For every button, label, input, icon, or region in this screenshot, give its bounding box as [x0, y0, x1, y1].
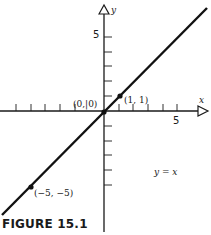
point-neg5-neg5: [28, 184, 33, 189]
point-1-1-label: (1, 1): [124, 95, 148, 105]
point-1-1: [117, 93, 122, 98]
chart-canvas: y x 5 5 (0,|0) (1, 1) (−5, −5) y = x: [0, 0, 211, 235]
point-neg5-label: (−5, −5): [34, 188, 73, 198]
point-origin: [101, 109, 106, 114]
origin-label: (0,|0): [73, 99, 97, 110]
x-axis-label: x: [199, 95, 204, 105]
y-axis-label: y: [110, 5, 117, 15]
x-axis-arrow-icon: [198, 106, 208, 116]
y-axis-arrow-icon: [99, 5, 109, 14]
y-tick-label-5: 5: [93, 29, 99, 40]
figure-caption: FIGURE 15.1: [2, 217, 88, 231]
x-tick-label-5: 5: [173, 115, 179, 126]
equation-label: y = x: [153, 167, 177, 177]
